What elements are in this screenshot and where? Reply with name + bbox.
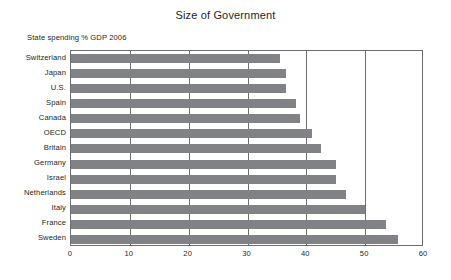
bar-row (71, 111, 424, 126)
y-label-switzerland: Switzerland (0, 53, 66, 62)
x-axis-tick-labels: 0102030405060 (0, 249, 451, 263)
bar-row (71, 66, 424, 81)
y-label-canada: Canada (0, 113, 66, 122)
y-label-france: France (0, 218, 66, 227)
bar-row (71, 232, 424, 247)
bar-oecd (71, 129, 312, 138)
x-tick-30: 30 (242, 249, 251, 258)
bar-row (71, 157, 424, 172)
y-label-netherlands: Netherlands (0, 188, 66, 197)
bar-netherlands (71, 190, 346, 199)
chart-subtitle: State spending % GDP 2006 (27, 33, 126, 42)
bar-canada (71, 114, 300, 123)
x-tick-10: 10 (125, 249, 134, 258)
plot-area (70, 50, 423, 246)
y-label-spain: Spain (0, 98, 66, 107)
bar-britain (71, 144, 321, 153)
bar-japan (71, 69, 286, 78)
x-tick-50: 50 (360, 249, 369, 258)
bar-switzerland (71, 54, 280, 63)
y-label-israel: Israel (0, 173, 66, 182)
bar-sweden (71, 235, 398, 244)
x-tick-60: 60 (419, 249, 428, 258)
x-tick-0: 0 (68, 249, 72, 258)
bar-spain (71, 99, 296, 108)
y-label-germany: Germany (0, 158, 66, 167)
y-label-italy: Italy (0, 203, 66, 212)
bar-u-s- (71, 84, 286, 93)
bar-chart: Size of Government State spending % GDP … (0, 0, 451, 280)
y-label-u-s-: U.S. (0, 83, 66, 92)
x-tick-20: 20 (183, 249, 192, 258)
bar-row (71, 141, 424, 156)
chart-title: Size of Government (0, 9, 451, 21)
bar-row (71, 187, 424, 202)
bar-israel (71, 175, 336, 184)
bar-row (71, 81, 424, 96)
bar-row (71, 126, 424, 141)
bar-row (71, 51, 424, 66)
bar-italy (71, 205, 365, 214)
bar-row (71, 96, 424, 111)
x-tick-40: 40 (301, 249, 310, 258)
bar-row (71, 202, 424, 217)
y-label-sweden: Sweden (0, 233, 66, 242)
y-label-oecd: OECD (0, 128, 66, 137)
bar-row (71, 217, 424, 232)
bar-series (71, 51, 422, 245)
y-label-japan: Japan (0, 68, 66, 77)
bar-germany (71, 160, 336, 169)
bar-row (71, 172, 424, 187)
y-label-britain: Britain (0, 143, 66, 152)
y-axis-category-labels: SwitzerlandJapanU.S.SpainCanadaOECDBrita… (0, 50, 66, 246)
bar-france (71, 220, 386, 229)
